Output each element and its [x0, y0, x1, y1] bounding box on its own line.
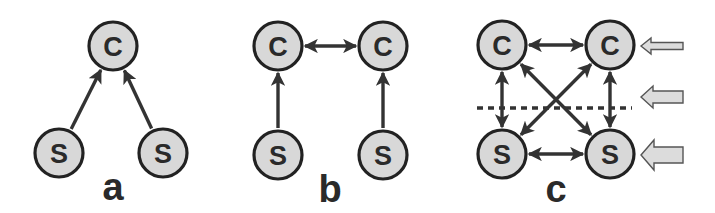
node-label: S — [269, 141, 287, 171]
diagram-canvas: CSSCCSSCCSS abc — [0, 0, 715, 213]
node-s-a-s2: S — [139, 129, 187, 177]
node-c-c-c2: C — [586, 21, 634, 69]
node-label: S — [601, 140, 619, 170]
arrow-a-s1-to-a-c — [71, 70, 101, 129]
node-label: C — [373, 32, 393, 62]
node-c-a-c: C — [89, 22, 137, 70]
node-label: C — [492, 31, 512, 61]
node-c-c-c1: C — [478, 21, 526, 69]
panel-label-b: b — [318, 168, 341, 210]
node-c-b-c1: C — [254, 22, 302, 70]
node-s-b-s2: S — [359, 131, 407, 179]
node-label: S — [50, 139, 68, 169]
hollow-left-arrow-icon-top — [641, 38, 683, 54]
node-label: S — [374, 141, 392, 171]
node-s-c-s1: S — [478, 130, 526, 178]
node-s-a-s1: S — [35, 129, 83, 177]
node-label: C — [600, 31, 620, 61]
panel-label-c: c — [545, 168, 566, 210]
node-s-b-s1: S — [254, 131, 302, 179]
hollow-left-arrow-icon-bottom — [641, 140, 683, 170]
panel-label-a: a — [102, 166, 124, 208]
node-label: C — [268, 32, 288, 62]
node-label: S — [493, 140, 511, 170]
hollow-left-arrow-icon-middle — [641, 86, 683, 108]
arrow-a-s2-to-a-c — [124, 71, 151, 129]
node-c-b-c2: C — [359, 22, 407, 70]
node-label: C — [103, 32, 123, 62]
node-label: S — [154, 139, 172, 169]
node-s-c-s2: S — [586, 130, 634, 178]
